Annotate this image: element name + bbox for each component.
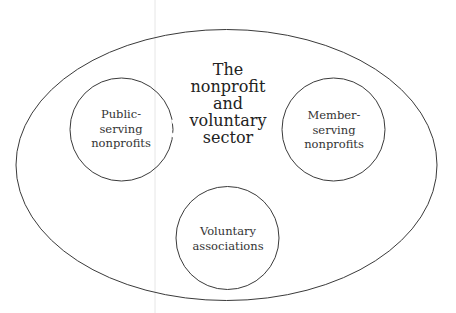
voluntary-associations-label-line: associations xyxy=(192,239,263,254)
public-serving-label-line: nonprofits xyxy=(91,136,151,151)
outer-sector-label: The nonprofit and voluntary sector xyxy=(189,61,266,146)
outer-label-line: and xyxy=(189,95,266,112)
member-serving-label-line: nonprofits xyxy=(304,137,364,152)
voluntary-associations-label: Voluntary associations xyxy=(192,224,263,253)
outer-label-line: voluntary xyxy=(189,112,266,129)
public-serving-label-line: Public- xyxy=(91,107,151,122)
member-serving-label-line: serving xyxy=(304,123,364,138)
public-serving-label-line: serving xyxy=(91,122,151,137)
circle-gap-mark xyxy=(172,133,174,137)
outer-label-line: The xyxy=(189,61,266,78)
outer-label-line: sector xyxy=(189,129,266,146)
public-serving-label: Public- serving nonprofits xyxy=(91,107,151,151)
outer-label-line: nonprofit xyxy=(189,78,266,95)
voluntary-associations-label-line: Voluntary xyxy=(192,224,263,239)
member-serving-label: Member- serving nonprofits xyxy=(304,108,364,152)
sector-diagram xyxy=(0,0,456,313)
member-serving-label-line: Member- xyxy=(304,108,364,123)
